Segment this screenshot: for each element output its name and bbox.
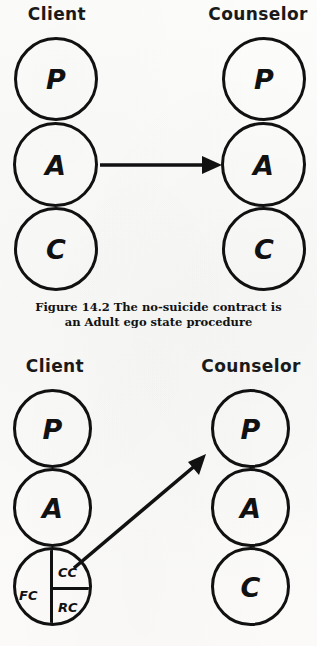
adult-to-adult-transaction-arrow — [98, 148, 224, 182]
counselor-parent-circle[interactable]: P — [222, 37, 306, 121]
caption-line-1: Figure 14.2 The no-suicide contract is — [0, 300, 317, 315]
counselor-child-circle[interactable]: C — [222, 207, 306, 291]
counselor-child-letter: C — [225, 236, 303, 263]
client-column-label: Client — [15, 4, 99, 24]
counselor-adult-circle[interactable]: A — [221, 122, 306, 207]
caption-line-2: an Adult ego state procedure — [0, 315, 317, 330]
lower-counselor-parent-letter: P — [214, 415, 287, 442]
lower-counselor-adult-circle[interactable]: A — [211, 468, 290, 547]
client-adult-letter: A — [16, 151, 95, 178]
lower-counselor-adult-letter: A — [214, 494, 287, 521]
client-parent-circle[interactable]: P — [14, 37, 98, 121]
figure-caption: Figure 14.2 The no-suicide contract is a… — [0, 300, 317, 330]
child-to-parent-transaction-arrow — [68, 448, 214, 574]
client-child-circle[interactable]: C — [14, 207, 98, 291]
lower-client-column-label: Client — [14, 356, 96, 376]
figure-14-2-diagram: Client Counselor P A C P A C — [0, 0, 317, 300]
counselor-column-label: Counselor — [203, 4, 313, 24]
scanned-page: Client Counselor P A C P A C Figure 14 — [0, 0, 317, 646]
counselor-adult-letter: A — [224, 151, 303, 178]
client-child-letter: C — [17, 236, 95, 263]
free-child-label: FC — [19, 589, 37, 602]
lower-counselor-parent-circle[interactable]: P — [211, 389, 290, 468]
lower-counselor-column-label: Counselor — [196, 356, 306, 376]
client-parent-letter: P — [17, 66, 95, 93]
lower-counselor-child-circle[interactable]: C — [211, 547, 290, 626]
client-adult-circle[interactable]: A — [13, 122, 98, 207]
lower-diagram: Client Counselor P A FC CC RC P A C — [0, 356, 317, 646]
counselor-parent-letter: P — [225, 66, 303, 93]
lower-counselor-child-letter: C — [214, 573, 287, 600]
child-horizontal-divider — [50, 587, 89, 590]
rebellious-child-label: RC — [58, 601, 78, 614]
lower-client-parent-letter: P — [16, 415, 89, 442]
